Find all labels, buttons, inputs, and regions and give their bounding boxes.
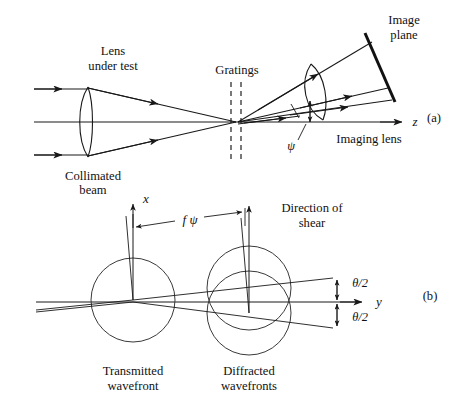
- imaging-lens-label: Imaging lens: [336, 132, 402, 146]
- panel-a-tag: (a): [427, 111, 441, 125]
- diffracted-wavefronts-label-line1: Diffracted: [223, 364, 275, 378]
- image-plane-label-line1: Image: [388, 13, 420, 27]
- axis-x: [126, 204, 133, 300]
- axis-y-label: y: [374, 294, 382, 309]
- direction-of-shear-label-line1: Direction of: [281, 201, 343, 215]
- panel-b-tag: (b): [423, 289, 438, 303]
- lens-under-test-label-line2: under test: [88, 59, 138, 73]
- lens-under-test-label-line1: Lens: [101, 44, 126, 58]
- image-plane-glyph: [365, 33, 395, 102]
- diffracted-wavefronts-label-line2: wavefronts: [221, 379, 277, 393]
- figure-root: Lens under test Collimated beam Gratings…: [0, 0, 456, 409]
- collimated-beam-label-line2: beam: [79, 183, 106, 197]
- psi-angle-label: ψ: [287, 139, 295, 153]
- direction-of-shear-label-line2: shear: [299, 216, 326, 230]
- collimated-beam-label-line1: Collimated: [65, 169, 122, 183]
- theta-over-two-upper-label: θ/2: [352, 276, 368, 290]
- transmitted-wavefront-label-line2: wavefront: [107, 379, 159, 393]
- theta-over-two-lower-label: θ/2: [352, 310, 368, 324]
- transmitted-wavefront-label-line1: Transmitted: [103, 364, 164, 378]
- axis-z-label: z: [411, 114, 417, 129]
- image-plane-label-line2: plane: [390, 28, 418, 42]
- f-psi-label: f ψ: [183, 212, 199, 227]
- axis-x-label: x: [142, 191, 149, 206]
- gratings-label: Gratings: [215, 63, 258, 77]
- optics-diagram: Lens under test Collimated beam Gratings…: [0, 0, 456, 409]
- post-grating-rays: [238, 42, 392, 124]
